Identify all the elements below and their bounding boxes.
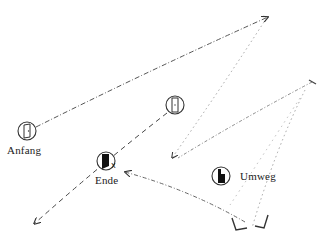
node-ende[interactable]: x bbox=[97, 152, 116, 170]
node-closed-door[interactable] bbox=[166, 96, 184, 114]
node-umweg[interactable] bbox=[212, 167, 230, 185]
edge-anfang-to-top-right bbox=[36, 17, 268, 127]
diagram-canvas: x bbox=[0, 0, 318, 241]
node-anfang[interactable] bbox=[18, 122, 36, 140]
label-umweg: Umweg bbox=[240, 170, 276, 182]
edge-right-to-bottom-right bbox=[230, 90, 305, 230]
x-marker: x bbox=[111, 161, 116, 170]
label-ende: Ende bbox=[95, 174, 118, 186]
label-anfang: Anfang bbox=[7, 144, 41, 156]
edge-top-right-to-left-mid bbox=[172, 22, 264, 158]
